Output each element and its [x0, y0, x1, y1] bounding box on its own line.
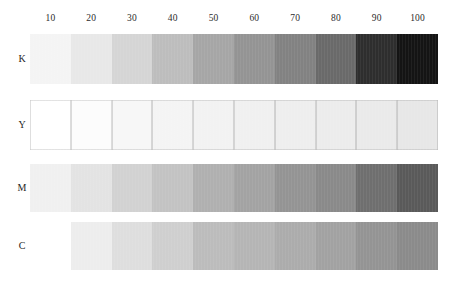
scale-tick: 80 — [316, 10, 357, 28]
scale-tick: 50 — [193, 10, 234, 28]
wedge-row-k: K — [0, 34, 461, 84]
tint-swatch — [356, 164, 397, 212]
tint-percent-scale: 10 20 30 40 50 60 70 80 90 100 — [30, 10, 438, 28]
tint-swatch — [30, 222, 71, 270]
tint-swatch — [193, 100, 234, 150]
tint-swatch — [397, 164, 438, 212]
scale-tick: 60 — [234, 10, 275, 28]
tint-swatch — [71, 34, 112, 84]
scale-tick: 100 — [397, 10, 438, 28]
wedge-row-c: C — [0, 222, 461, 270]
tint-swatch — [275, 100, 316, 150]
tint-swatch — [112, 34, 153, 84]
tint-swatch — [234, 164, 275, 212]
tint-swatch — [356, 34, 397, 84]
tint-swatch — [316, 164, 357, 212]
scale-tick: 10 — [30, 10, 71, 28]
tint-swatch — [356, 222, 397, 270]
wedge-row-m: M — [0, 164, 461, 212]
tint-swatch — [112, 164, 153, 212]
scale-tick: 20 — [71, 10, 112, 28]
tint-swatch — [71, 222, 112, 270]
wedge-band-y — [30, 100, 438, 150]
tint-swatch — [316, 222, 357, 270]
tint-swatch — [397, 34, 438, 84]
scale-tick: 70 — [275, 10, 316, 28]
tint-swatch — [30, 34, 71, 84]
wedge-band-m — [30, 164, 438, 212]
wedge-row-label-k: K — [14, 54, 30, 64]
wedge-band-k — [30, 34, 438, 84]
wedge-row-label-y: Y — [14, 120, 30, 130]
scale-tick: 30 — [112, 10, 153, 28]
tint-swatch — [234, 100, 275, 150]
tint-swatch — [193, 34, 234, 84]
tint-swatch — [152, 164, 193, 212]
tint-swatch — [275, 222, 316, 270]
tint-swatch — [71, 100, 112, 150]
tint-swatch — [30, 100, 71, 150]
wedge-row-label-m: M — [14, 183, 30, 193]
tint-swatch — [275, 164, 316, 212]
tint-swatch — [316, 34, 357, 84]
tint-swatch — [112, 100, 153, 150]
tint-swatch — [193, 222, 234, 270]
tint-swatch — [152, 100, 193, 150]
cmyk-step-wedge-chart: 10 20 30 40 50 60 70 80 90 100 K Y M C — [0, 0, 461, 287]
tint-swatch — [356, 100, 397, 150]
scale-tick: 90 — [356, 10, 397, 28]
tint-swatch — [152, 34, 193, 84]
tint-swatch — [112, 222, 153, 270]
wedge-band-c — [30, 222, 438, 270]
tint-swatch — [193, 164, 234, 212]
scale-tick: 40 — [152, 10, 193, 28]
tint-swatch — [234, 34, 275, 84]
wedge-row-y: Y — [0, 100, 461, 150]
tint-swatch — [316, 100, 357, 150]
tint-swatch — [152, 222, 193, 270]
tint-swatch — [397, 100, 438, 150]
tint-swatch — [234, 222, 275, 270]
tint-swatch — [275, 34, 316, 84]
tint-swatch — [397, 222, 438, 270]
tint-swatch — [30, 164, 71, 212]
wedge-row-label-c: C — [14, 241, 30, 251]
tint-swatch — [71, 164, 112, 212]
